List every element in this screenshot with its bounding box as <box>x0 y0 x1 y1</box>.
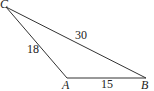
side-label-cb: 30 <box>75 28 87 42</box>
triangle-diagram: C A B 18 30 15 <box>0 0 154 91</box>
vertex-label-b: B <box>141 78 149 91</box>
vertex-label-c: C <box>0 0 9 11</box>
side-label-ca: 18 <box>27 42 39 56</box>
side-label-ab: 15 <box>101 77 113 91</box>
vertex-label-a: A <box>61 78 70 91</box>
